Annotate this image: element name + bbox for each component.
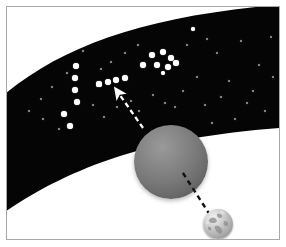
constellation-star — [140, 62, 146, 68]
background-star — [152, 94, 154, 96]
earth-globe — [203, 209, 233, 239]
background-star — [116, 106, 118, 108]
background-star — [220, 96, 222, 98]
figure-frame: Parallax observation diagram — [0, 0, 286, 247]
background-star — [206, 38, 208, 40]
star-band-shape — [7, 7, 279, 239]
background-star — [82, 50, 84, 52]
constellation-star — [74, 99, 80, 105]
background-star — [66, 72, 68, 74]
background-star — [100, 68, 102, 70]
earth-continents — [203, 209, 233, 239]
constellation-star — [72, 87, 78, 93]
constellation-star — [96, 81, 101, 86]
background-star — [174, 106, 176, 108]
near-object-sphere — [134, 125, 208, 199]
constellation-star — [173, 60, 179, 66]
constellation-star — [113, 77, 119, 83]
constellation-star — [73, 63, 79, 69]
constellation-star — [61, 111, 67, 117]
background-star — [234, 118, 236, 120]
background-star — [138, 110, 140, 112]
background-star — [186, 44, 188, 46]
star-band-region — [7, 7, 279, 239]
figure-title: Parallax observation diagram — [0, 0, 1, 1]
constellation-star — [122, 75, 128, 81]
background-star — [164, 102, 166, 104]
background-star — [252, 90, 254, 92]
background-star — [42, 118, 44, 120]
background-star — [272, 76, 274, 78]
astronomy-scene — [7, 7, 279, 239]
constellation-star — [72, 75, 78, 81]
constellation-star — [165, 64, 171, 70]
constellation-star — [105, 79, 111, 85]
background-star — [124, 52, 126, 54]
